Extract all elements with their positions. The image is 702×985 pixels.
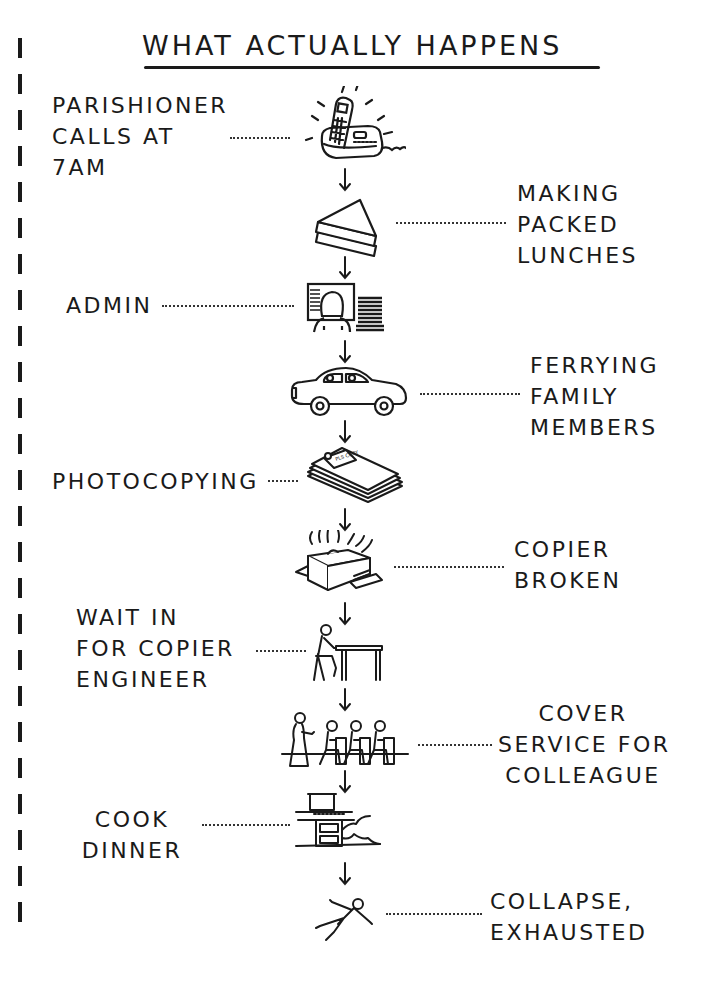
connector-dots (420, 393, 520, 395)
arrow-down-icon (338, 602, 352, 626)
connector-dots (386, 913, 482, 915)
connector-dots (268, 480, 298, 482)
broken-copier-icon (292, 530, 388, 600)
telephone-ringing-icon (296, 86, 406, 166)
step-label-cook-dinner: COOK DINNER (72, 804, 192, 866)
connector-dots (418, 744, 492, 746)
step-label-wait-engineer: WAIT IN FOR COPIER ENGINEER (76, 602, 235, 695)
connector-dots (256, 650, 306, 652)
step-label-photocopying: PHOTOCOPYING (52, 466, 259, 497)
step-label-packed-lunches: MAKING PACKED LUNCHES (517, 178, 638, 271)
paper-stack-icon: PLS COPY (306, 446, 406, 506)
person-at-table-icon (312, 624, 384, 684)
connector-dots (162, 305, 294, 307)
step-label-copier-broken: COPIER BROKEN (514, 534, 621, 596)
stove-icon (292, 790, 384, 852)
step-label-collapse-exhausted: COLLAPSE, EXHAUSTED (490, 886, 647, 948)
arrow-down-icon (338, 420, 352, 444)
step-label-parishioner-calls: PARISHIONER CALLS AT 7AM (52, 90, 228, 183)
collapsed-person-icon (314, 896, 376, 942)
step-label-admin: ADMIN (66, 290, 152, 321)
diagram-title: WHAT ACTUALLY HAPPENS (142, 30, 562, 61)
arrow-down-icon (338, 862, 352, 886)
sandwich-icon (312, 198, 384, 260)
arrow-down-icon (338, 256, 352, 280)
car-icon (288, 366, 412, 418)
step-label-ferrying-family: FERRYING FAMILY MEMBERS (530, 350, 659, 443)
connector-dots (394, 566, 504, 568)
step-label-cover-service: COVER SERVICE FOR COLLEAGUE (498, 698, 668, 791)
dashed-divider-line (18, 38, 22, 938)
connector-dots (230, 137, 290, 139)
arrow-down-icon (338, 688, 352, 712)
arrow-down-icon (338, 340, 352, 364)
arrow-down-icon (338, 168, 352, 192)
connector-dots (396, 222, 506, 224)
congregation-icon (280, 710, 410, 770)
arrow-down-icon (338, 508, 352, 532)
computer-desk-icon (306, 282, 386, 336)
connector-dots (202, 824, 290, 826)
title-underline (144, 66, 600, 69)
